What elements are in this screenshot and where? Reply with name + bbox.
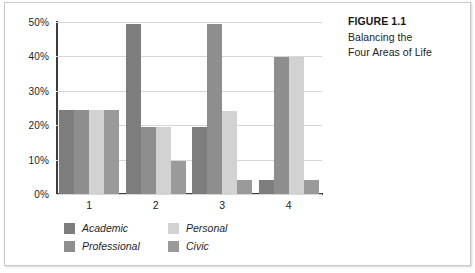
plot-area: 0%10%20%30%40%50% — [56, 22, 322, 194]
bar-personal — [289, 57, 304, 194]
legend-swatch-icon — [168, 241, 179, 252]
legend-swatch-icon — [168, 223, 179, 234]
bar-group — [189, 22, 256, 194]
bar-group — [256, 22, 323, 194]
figure-container: 0%10%20%30%40%50% 1234 AcademicPersonalP… — [0, 0, 475, 273]
caption-line-1: Balancing the — [348, 30, 460, 45]
figure-caption: FIGURE 1.1 Balancing the Four Areas of L… — [348, 14, 460, 59]
y-axis-tick-label: 0% — [34, 189, 49, 200]
legend-label: Professional — [82, 240, 140, 252]
caption-line-2: Four Areas of Life — [348, 45, 460, 60]
bar-professional — [74, 110, 89, 194]
bar-academic — [192, 127, 207, 194]
legend-label: Personal — [186, 222, 227, 234]
gridline — [56, 194, 322, 195]
legend-item-personal: Personal — [168, 222, 272, 234]
bar-academic — [259, 180, 274, 194]
legend-swatch-icon — [64, 241, 75, 252]
bar-professional — [141, 127, 156, 194]
bar-civic — [104, 110, 119, 194]
legend-swatch-icon — [64, 223, 75, 234]
legend-label: Civic — [186, 240, 209, 252]
bar-group — [123, 22, 190, 194]
bar-academic — [59, 110, 74, 194]
chart: 0%10%20%30%40%50% 1234 AcademicPersonalP… — [0, 0, 348, 264]
bar-personal — [222, 111, 237, 194]
x-axis-tick-label: 4 — [286, 199, 292, 211]
y-axis-tick-label: 50% — [28, 17, 49, 28]
y-axis-tick-label: 30% — [28, 85, 49, 96]
bar-civic — [171, 161, 186, 194]
legend-label: Academic — [82, 222, 128, 234]
bar-group — [56, 22, 123, 194]
bar-academic — [126, 24, 141, 194]
x-axis-tick-label: 3 — [219, 199, 225, 211]
bar-personal — [156, 127, 171, 194]
bar-professional — [207, 24, 222, 194]
x-axis-tick-label: 2 — [153, 199, 159, 211]
chart-legend: AcademicPersonalProfessionalCivic — [64, 219, 294, 255]
caption-title: FIGURE 1.1 — [348, 14, 460, 28]
bar-civic — [237, 180, 252, 194]
y-axis-tick-label: 40% — [28, 51, 49, 62]
legend-item-civic: Civic — [168, 240, 272, 252]
bar-professional — [274, 57, 289, 194]
y-axis-tick-label: 20% — [28, 120, 49, 131]
bar-personal — [89, 110, 104, 194]
legend-item-professional: Professional — [64, 240, 168, 252]
legend-item-academic: Academic — [64, 222, 168, 234]
bar-civic — [304, 180, 319, 194]
x-axis-tick-label: 1 — [86, 199, 92, 211]
y-axis-tick-label: 10% — [28, 154, 49, 165]
